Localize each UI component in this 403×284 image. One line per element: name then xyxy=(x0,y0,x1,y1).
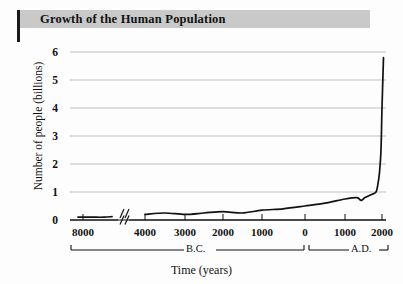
figure-panel: Growth of the Human Population Number of… xyxy=(0,0,403,284)
era-label-bc: B.C. xyxy=(184,243,207,254)
era-label-ad: A.D. xyxy=(349,243,373,254)
era-bracket-svg xyxy=(0,0,403,284)
x-axis-title: Time (years) xyxy=(0,263,403,278)
